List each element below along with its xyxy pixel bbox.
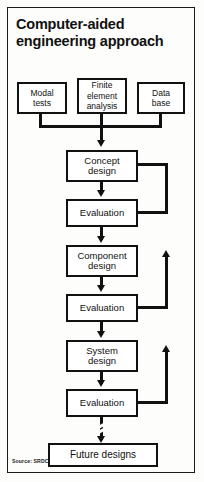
node-label: Data base — [150, 88, 172, 109]
node-system-design[interactable]: System design — [66, 340, 138, 372]
arrow-merge-to-concept — [97, 140, 105, 147]
feedback-1-in — [138, 163, 168, 166]
arrow-feedback-2 — [162, 250, 170, 257]
node-concept-design[interactable]: Concept design — [66, 150, 138, 182]
node-label: Modal tests — [28, 88, 55, 109]
feedback-2-out — [138, 306, 168, 309]
source-caption: Source: SRDC — [12, 458, 49, 464]
feedback-3-riser — [165, 351, 168, 404]
arrow-to-future-designs — [97, 436, 105, 443]
arrow-eval2-to-system — [97, 331, 105, 338]
figure-canvas: Computer-aided engineering approach Moda… — [0, 0, 204, 482]
node-data-base[interactable]: Data base — [137, 82, 185, 114]
arrow-component-to-eval2 — [97, 285, 105, 292]
arrow-concept-to-eval1 — [97, 190, 105, 197]
node-label: Evaluation — [78, 208, 126, 219]
node-evaluation-1[interactable]: Evaluation — [66, 199, 138, 227]
node-evaluation-3[interactable]: Evaluation — [66, 389, 138, 417]
node-finite-element-analysis[interactable]: Finite element analysis — [77, 78, 127, 114]
arrow-eval1-to-component — [97, 236, 105, 243]
node-label: Evaluation — [78, 398, 126, 409]
feedback-3-out — [138, 401, 168, 404]
figure-title: Computer-aided engineering approach — [16, 16, 188, 50]
node-label: Evaluation — [78, 303, 126, 314]
node-component-design[interactable]: Component design — [66, 245, 138, 277]
arrow-feedback-3 — [162, 345, 170, 352]
node-evaluation-2[interactable]: Evaluation — [66, 294, 138, 322]
node-label: Concept design — [82, 156, 121, 177]
feedback-1-out — [138, 211, 168, 214]
arrow-system-to-eval3 — [97, 380, 105, 387]
feedback-2-riser — [165, 256, 168, 309]
node-label: Component design — [75, 251, 128, 272]
node-label: Future designs — [68, 450, 138, 461]
node-future-designs[interactable]: Future designs — [48, 443, 158, 467]
node-label: Finite element analysis — [85, 80, 120, 112]
node-label: System design — [84, 346, 120, 367]
feedback-1-riser — [165, 163, 168, 214]
node-modal-tests[interactable]: Modal tests — [17, 82, 67, 114]
